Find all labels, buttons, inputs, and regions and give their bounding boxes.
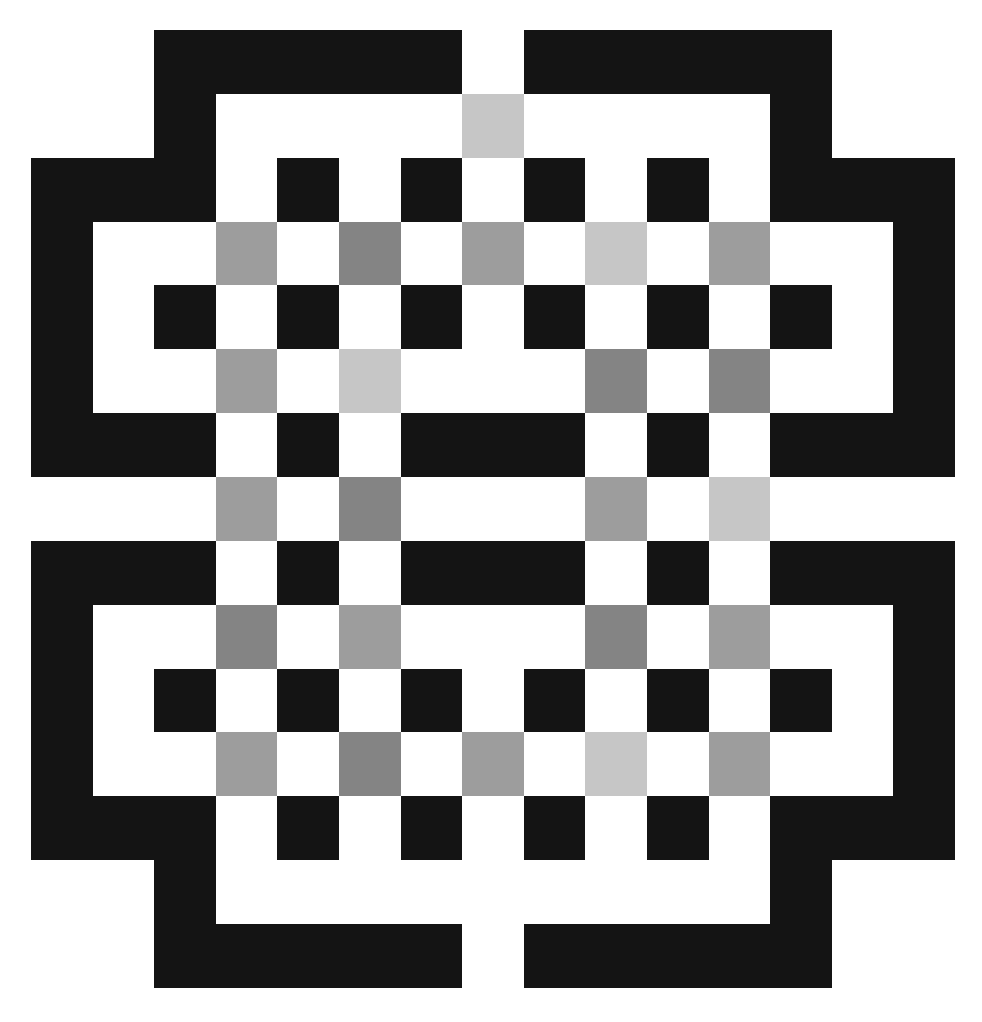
board-cell-black xyxy=(277,413,339,477)
board-cell-white xyxy=(647,349,709,413)
board-cell-black xyxy=(277,285,339,349)
board-cell-white xyxy=(893,860,955,924)
board-cell-black xyxy=(647,541,709,605)
board-cell-black xyxy=(893,541,955,605)
board-cell-black xyxy=(401,669,463,733)
board-cell-black xyxy=(893,285,955,349)
board-cell-black xyxy=(31,349,93,413)
board-cell-dark-gray xyxy=(339,222,401,286)
board-cell-white xyxy=(93,222,155,286)
board-cell-white xyxy=(216,285,278,349)
board-cell-white xyxy=(93,477,155,541)
board-cell-white xyxy=(339,669,401,733)
board-cell-black xyxy=(524,924,586,988)
board-cell-white xyxy=(216,796,278,860)
board-cell-black xyxy=(770,796,832,860)
board-cell-black xyxy=(709,30,771,94)
board-cell-white xyxy=(93,30,155,94)
board-cell-white xyxy=(832,924,894,988)
board-cell-white xyxy=(524,349,586,413)
board-cell-white xyxy=(339,285,401,349)
board-cell-black xyxy=(216,924,278,988)
board-cell-black xyxy=(770,541,832,605)
board-cell-dark-gray xyxy=(585,605,647,669)
board-cell-black xyxy=(770,924,832,988)
board-cell-white xyxy=(462,158,524,222)
board-cell-black xyxy=(709,924,771,988)
board-cell-black xyxy=(647,30,709,94)
board-cell-black xyxy=(893,732,955,796)
board-cell-black xyxy=(524,30,586,94)
board-cell-mid-gray xyxy=(585,477,647,541)
board-cell-white xyxy=(462,669,524,733)
board-cell-white xyxy=(154,732,216,796)
board-cell-white xyxy=(893,94,955,158)
board-cell-white xyxy=(31,924,93,988)
board-cell-white xyxy=(339,860,401,924)
board-cell-mid-gray xyxy=(216,349,278,413)
board-cell-black xyxy=(277,796,339,860)
board-cell-mid-gray xyxy=(709,732,771,796)
board-cell-dark-gray xyxy=(709,349,771,413)
board-cell-black xyxy=(893,222,955,286)
board-cell-black xyxy=(31,732,93,796)
board-cell-black xyxy=(770,669,832,733)
board-cell-white xyxy=(277,605,339,669)
board-cell-white xyxy=(832,669,894,733)
board-cell-black xyxy=(93,541,155,605)
board-cell-black xyxy=(277,669,339,733)
board-cell-black xyxy=(93,158,155,222)
board-cell-black xyxy=(770,860,832,924)
board-cell-white xyxy=(709,285,771,349)
board-cell-black xyxy=(893,796,955,860)
board-cell-black xyxy=(893,669,955,733)
board-cell-white xyxy=(277,860,339,924)
board-cell-white xyxy=(832,860,894,924)
board-cell-white xyxy=(339,796,401,860)
board-cell-black xyxy=(893,605,955,669)
board-cell-white xyxy=(893,924,955,988)
board-cell-white xyxy=(401,860,463,924)
board-cell-light-gray xyxy=(585,222,647,286)
board-cell-white xyxy=(462,860,524,924)
board-cell-black xyxy=(154,158,216,222)
board-cell-white xyxy=(647,94,709,158)
board-cell-black xyxy=(154,924,216,988)
board-cell-black xyxy=(277,924,339,988)
board-cell-black xyxy=(31,222,93,286)
board-cell-black xyxy=(93,796,155,860)
board-cell-white xyxy=(647,605,709,669)
board-cell-white xyxy=(832,30,894,94)
board-cell-white xyxy=(709,413,771,477)
board-cell-white xyxy=(832,222,894,286)
board-cell-black xyxy=(770,285,832,349)
board-cell-black xyxy=(401,158,463,222)
board-cell-white xyxy=(339,94,401,158)
board-cell-white xyxy=(154,222,216,286)
board-cell-white xyxy=(709,796,771,860)
board-cell-white xyxy=(770,222,832,286)
board-cell-white xyxy=(647,222,709,286)
board-cell-white xyxy=(93,924,155,988)
board-cell-white xyxy=(524,732,586,796)
board-cell-white xyxy=(31,477,93,541)
board-cell-black xyxy=(832,541,894,605)
board-cell-white xyxy=(216,541,278,605)
board-cell-black xyxy=(401,30,463,94)
board-cell-white xyxy=(93,605,155,669)
board-cell-white xyxy=(216,94,278,158)
board-cell-white xyxy=(647,732,709,796)
board-cell-white xyxy=(462,349,524,413)
board-cell-light-gray xyxy=(709,477,771,541)
board-cell-white xyxy=(31,94,93,158)
board-cell-white xyxy=(524,477,586,541)
board-cell-white xyxy=(154,477,216,541)
board-cell-white xyxy=(401,349,463,413)
board-cell-black xyxy=(31,796,93,860)
board-cell-black xyxy=(524,413,586,477)
board-cell-black xyxy=(647,796,709,860)
board-cell-white xyxy=(339,158,401,222)
board-cell-black xyxy=(524,669,586,733)
board-cell-white xyxy=(709,669,771,733)
board-cell-black xyxy=(770,30,832,94)
